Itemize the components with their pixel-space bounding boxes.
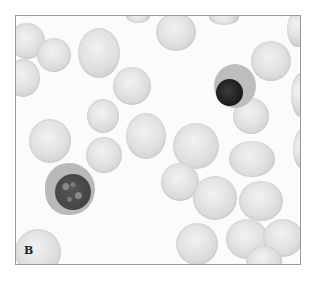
red-blood-cell [126,15,150,23]
red-blood-cell [229,141,275,177]
red-blood-cell [29,119,71,163]
red-blood-cell [78,28,120,78]
red-blood-cell [287,15,301,47]
lymphocyte-nucleus [55,174,91,210]
red-blood-cell [176,223,218,265]
figure-caption [0,272,313,285]
red-blood-cell [156,15,196,51]
nucleated-rbc-nucleus [216,79,243,106]
red-blood-cell [126,113,166,159]
red-blood-cell [293,129,301,169]
red-blood-cell [15,229,61,265]
red-blood-cell [15,59,40,97]
red-blood-cell [113,67,151,105]
red-blood-cell [87,99,119,133]
red-blood-cell [37,38,71,72]
panel-label: B [24,244,33,257]
red-blood-cell [239,181,283,221]
red-blood-cell [193,176,237,220]
micrograph-frame [15,15,301,265]
red-blood-cell [86,137,122,173]
red-blood-cell [209,15,239,25]
red-blood-cell [291,73,301,117]
red-blood-cell [251,41,291,81]
